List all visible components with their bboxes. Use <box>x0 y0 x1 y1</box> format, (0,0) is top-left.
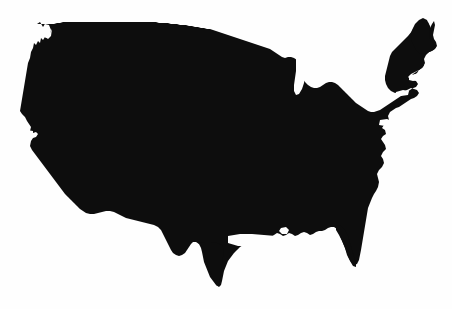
san-francisco-bay-notch <box>20 130 33 136</box>
map-figure: Solid black silhouette of the contiguous… <box>0 0 452 309</box>
us-silhouette-map: Solid black silhouette of the contiguous… <box>0 0 452 309</box>
